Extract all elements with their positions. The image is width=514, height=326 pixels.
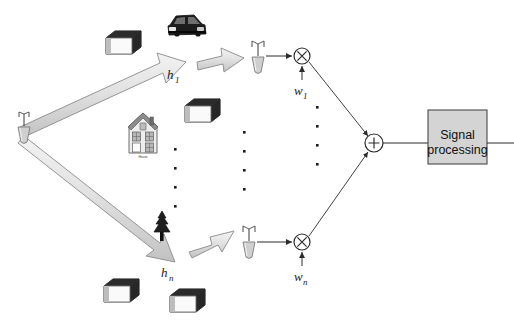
building-icon bbox=[185, 99, 220, 122]
multiplier-node-icon bbox=[294, 234, 310, 250]
label-hn-base: h bbox=[161, 265, 168, 280]
building-icon bbox=[170, 289, 205, 312]
diagram-canvas: House bbox=[0, 0, 514, 326]
label-h1-sub: 1 bbox=[175, 75, 180, 85]
summing-node-icon bbox=[365, 134, 383, 152]
label-hn-sub: n bbox=[169, 273, 174, 283]
signal-processing-block: Signal processing bbox=[427, 110, 487, 164]
label-w1-sub: 1 bbox=[303, 91, 308, 101]
signal-processing-line2: processing bbox=[427, 143, 487, 157]
house-caption: House bbox=[138, 155, 147, 159]
label-wn-base: w bbox=[294, 269, 303, 284]
label-w1-base: w bbox=[294, 83, 303, 98]
building-icon bbox=[106, 31, 141, 54]
label-h1-base: h bbox=[167, 67, 174, 82]
label-wn-sub: n bbox=[303, 277, 308, 287]
building-icon bbox=[104, 279, 139, 302]
multipath-receiver-diagram: House bbox=[0, 0, 514, 326]
signal-processing-line1: Signal bbox=[440, 128, 475, 142]
multiplier-node-icon bbox=[294, 48, 310, 64]
